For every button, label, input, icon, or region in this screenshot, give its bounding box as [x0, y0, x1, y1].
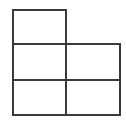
cell-r1-c1	[65, 43, 121, 81]
cell-r2-c1	[65, 79, 121, 116]
cell-r1-c0	[12, 43, 67, 81]
cell-r0-c0	[12, 9, 67, 45]
cell-r2-c0	[12, 79, 67, 116]
